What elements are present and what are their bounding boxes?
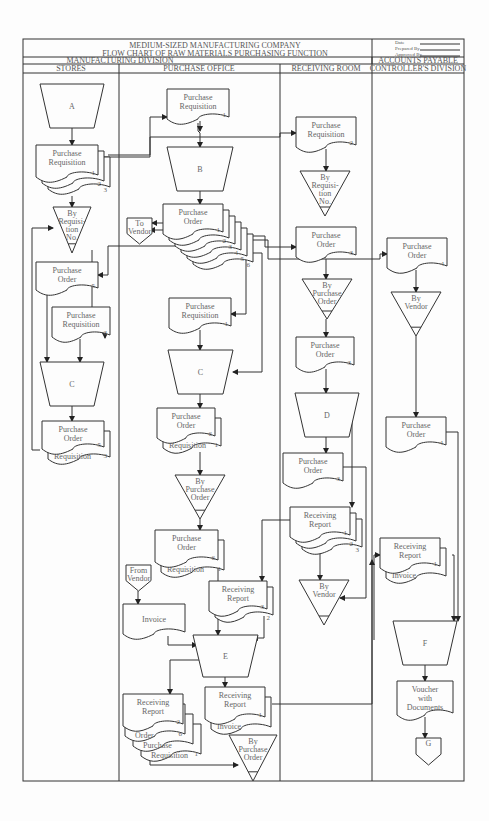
flow-arrow	[374, 555, 380, 640]
document-label: Receiving	[304, 511, 336, 520]
document-label: Report	[227, 594, 250, 603]
operation-label: F	[423, 639, 428, 648]
node-c_rr: InvoiceReceivingReport1	[380, 538, 446, 583]
copy-number: 2	[350, 540, 354, 548]
node-s_po5: PurchaseOrder5	[36, 262, 98, 295]
operation-label: E	[223, 652, 228, 661]
column-stores: STORES	[56, 64, 86, 73]
copy-number: 6	[209, 430, 213, 438]
document-label: Purchase	[53, 149, 82, 158]
document-label: Order	[64, 434, 83, 443]
connector-label: Vendor	[128, 227, 151, 236]
node-from_vendor: FromVendor	[126, 565, 151, 591]
copy-number: 3	[261, 603, 265, 611]
operation-label: C	[198, 368, 203, 377]
document-label: Documents	[407, 703, 443, 712]
copy-number: 2	[223, 237, 227, 245]
node-p_invoice: Invoice	[123, 604, 185, 639]
document-label: Order	[58, 275, 77, 284]
copy-number: 6	[247, 261, 251, 269]
flow-arrow	[170, 660, 200, 694]
flow-arrow	[233, 253, 262, 372]
node-p_rr1: InvoiceReceivingReport1	[205, 687, 271, 734]
node-r_pr2: PurchaseRequisition2	[296, 117, 356, 152]
operation-label: B	[197, 165, 202, 174]
copy-number: 5	[92, 282, 96, 290]
attached-label: Requisition	[151, 751, 188, 760]
node-p_po6b: Requisition1PurchaseOrder6	[155, 530, 224, 577]
node-r_file2: ByPurchaseOrder	[302, 279, 352, 319]
document-label: Report	[224, 700, 247, 709]
node-p_rr3: 2ReceivingReport3	[209, 581, 273, 622]
operation-label: D	[324, 411, 330, 420]
document-label: Order	[316, 350, 335, 359]
file-label: Order	[318, 297, 337, 306]
flow-arrow	[32, 228, 53, 450]
document-label: Purchase	[312, 121, 341, 130]
attached-label: Purchase	[143, 741, 172, 750]
document-label: Invoice	[142, 615, 166, 624]
connector-label: Vendor	[127, 574, 150, 583]
document-label: Order	[177, 543, 196, 552]
node-r_rr: 32ReceivingReport1	[290, 507, 362, 554]
copy-number: 2	[267, 614, 271, 622]
document-label: Purchase	[312, 231, 341, 240]
copy-number: 3	[229, 243, 233, 251]
node-r_po3: PurchaseOrder3	[296, 227, 356, 262]
node-p_po: 65432PurchaseOrder1	[163, 204, 253, 269]
document-label: Receiving	[222, 585, 254, 594]
copy-number: 3	[104, 329, 108, 337]
copy-number: 3	[348, 359, 352, 367]
node-r_po3c: PurchaseOrder3	[283, 453, 343, 488]
copy-number: 4	[441, 260, 445, 268]
node-E: E	[193, 635, 258, 677]
document-label: Order	[408, 251, 427, 260]
operation-label: C	[69, 380, 74, 389]
copy-number: 1	[215, 441, 219, 449]
document-label: Order	[177, 421, 196, 430]
node-p_file1: ByPurchaseOrder	[175, 475, 225, 519]
document-label: Requisition	[180, 102, 217, 111]
node-p_po6: Requisition1PurchaseOrder6	[157, 408, 221, 453]
document-label: Order	[317, 240, 336, 249]
node-B: B	[167, 147, 233, 191]
copy-number: 1	[218, 565, 222, 573]
node-s_pr3: PurchaseRequisition3	[52, 307, 110, 342]
document-label: Report	[142, 707, 165, 716]
column-purchase-office: PURCHASE OFFICE	[163, 64, 234, 73]
column-receiving-room: RECEIVING ROOM	[291, 64, 360, 73]
document-label: Receiving	[219, 691, 251, 700]
copy-number: 2	[350, 139, 354, 147]
header-text: MEDIUM-SIZED MANUFACTURING COMPANY FLOW …	[56, 40, 466, 73]
copy-number: 4	[235, 249, 239, 257]
node-voucher: VoucherwithDocuments	[397, 681, 453, 720]
node-G: G	[416, 738, 441, 765]
document-label: Voucher	[412, 685, 439, 694]
column-controllers-division: CONTROLLER'S DIVISION	[370, 64, 467, 73]
file-label: No.	[319, 197, 331, 206]
node-c_file: ByVendor	[391, 292, 441, 336]
file-label: Vendor	[312, 590, 335, 599]
document-label: Order	[304, 466, 323, 475]
copy-number: 1	[195, 750, 199, 758]
document-label: Purchase	[59, 425, 88, 434]
copy-number: 1	[344, 529, 348, 537]
node-p_pr1: PurchaseRequisition1	[167, 89, 229, 124]
document-label: Purchase	[179, 208, 208, 217]
document-label: Purchase	[172, 534, 201, 543]
copy-number: 1	[92, 169, 96, 177]
file-label: Order	[191, 493, 210, 502]
signoff-prepared: Prepared By	[395, 46, 420, 51]
copy-number: 3	[356, 546, 360, 554]
document-label: Purchase	[172, 412, 201, 421]
operation-label: A	[69, 102, 75, 111]
flow-arrow	[168, 636, 197, 645]
document-label: Receiving	[394, 542, 426, 551]
file-label: Vendor	[404, 302, 427, 311]
node-p_C: C	[168, 350, 233, 394]
node-A: A	[40, 84, 104, 128]
file-label: No.	[66, 233, 78, 242]
attached-label: Order	[135, 731, 154, 740]
copy-number: 6	[212, 554, 216, 562]
node-s_pr: 32PurchaseRequisition1	[36, 145, 110, 194]
